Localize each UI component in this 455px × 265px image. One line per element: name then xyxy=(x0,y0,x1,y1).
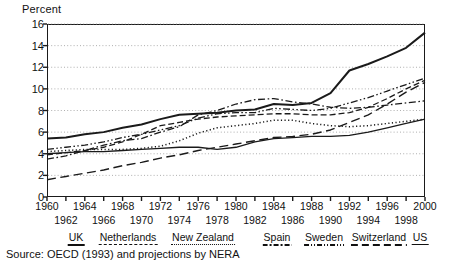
x-tick-label: 1960 xyxy=(35,200,58,212)
legend-item-new-zealand[interactable]: New Zealand xyxy=(171,231,235,247)
x-tick-label: 1986 xyxy=(281,214,304,226)
legend-line-swatch xyxy=(304,244,344,246)
x-tick-label: 1978 xyxy=(205,214,228,226)
chart-figure: Percent 0246810121416 196019641968197219… xyxy=(0,0,455,265)
x-tick-label: 1980 xyxy=(224,200,247,212)
x-tick-label: 1998 xyxy=(394,214,417,226)
x-axis-tick-labels-bottom: 1962196619701974197819821986199019941998 xyxy=(0,214,455,228)
x-tick-label: 1988 xyxy=(300,200,323,212)
y-tick-label: 4 xyxy=(16,148,44,160)
legend-line-swatch xyxy=(263,244,292,246)
legend-item-switzerland[interactable]: Switzerland xyxy=(351,231,407,248)
legend-item-spain[interactable]: Spain xyxy=(263,231,292,248)
legend-line-swatch xyxy=(171,244,235,245)
legend-label: Netherlands xyxy=(99,231,158,243)
source-note: Source: OECD (1993) and projections by N… xyxy=(6,248,240,260)
x-tick-label: 1974 xyxy=(168,214,191,226)
x-tick-label: 1976 xyxy=(187,200,210,212)
y-tick-label: 6 xyxy=(16,126,44,138)
legend-label: Sweden xyxy=(304,231,344,243)
x-tick-label: 1994 xyxy=(357,214,380,226)
legend-line-swatch xyxy=(68,244,85,246)
legend-label: Spain xyxy=(263,231,292,243)
x-axis-tick-labels-top: 1960196419681972197619801984198819921996… xyxy=(0,200,455,214)
legend-item-us[interactable]: US xyxy=(412,231,429,247)
x-tick-label: 1968 xyxy=(111,200,134,212)
chart-legend: UKNetherlandsNew ZealandSpainSwedenSwitz… xyxy=(0,231,455,247)
y-tick-label: 8 xyxy=(16,105,44,117)
x-tick-label: 1964 xyxy=(73,200,96,212)
plot-area xyxy=(47,24,425,197)
legend-label: US xyxy=(412,231,429,243)
x-tick-label: 2000 xyxy=(413,200,436,212)
x-tick-label: 1996 xyxy=(376,200,399,212)
legend-label: New Zealand xyxy=(171,231,235,243)
legend-label: Switzerland xyxy=(351,231,407,243)
legend-line-swatch xyxy=(412,244,429,245)
legend-item-netherlands[interactable]: Netherlands xyxy=(99,231,158,247)
y-tick-label: 10 xyxy=(16,83,44,95)
y-tick-label: 16 xyxy=(16,18,44,30)
legend-item-sweden[interactable]: Sweden xyxy=(304,231,344,248)
x-tick-label: 1972 xyxy=(149,200,172,212)
x-tick-label: 1966 xyxy=(92,214,115,226)
legend-line-swatch xyxy=(99,244,158,245)
x-tick-label: 1962 xyxy=(54,214,77,226)
x-tick-label: 1992 xyxy=(338,200,361,212)
y-tick-label: 12 xyxy=(16,61,44,73)
y-tick-label: 14 xyxy=(16,40,44,52)
legend-item-uk[interactable]: UK xyxy=(68,231,85,248)
x-tick-label: 1990 xyxy=(319,214,342,226)
y-tick-label: 2 xyxy=(16,169,44,181)
x-tick-label: 1970 xyxy=(130,214,153,226)
x-tick-label: 1984 xyxy=(262,200,285,212)
legend-label: UK xyxy=(68,231,85,243)
x-tick-label: 1982 xyxy=(243,214,266,226)
legend-line-swatch xyxy=(351,244,407,246)
